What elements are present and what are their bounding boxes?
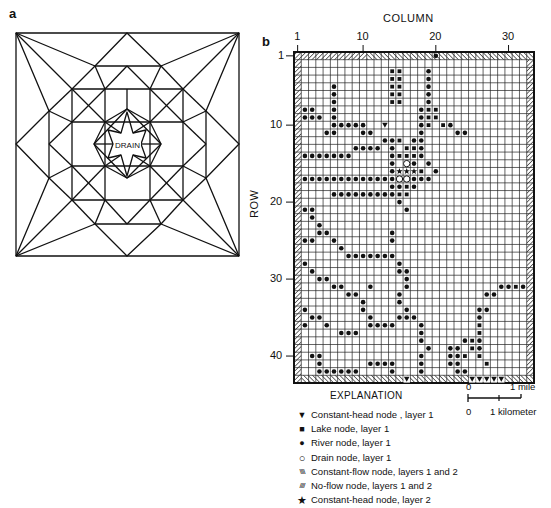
legend-item-river: ● River node, layer 1	[295, 436, 458, 450]
row-tick-label: 10	[270, 118, 282, 130]
constant-head-star-icon: ★	[295, 493, 309, 507]
model-grid	[0, 0, 551, 508]
legend-label: Lake node, layer 1	[311, 422, 389, 436]
explanation-title: EXPLANATION	[330, 390, 403, 401]
legend-item-constant-head-layer2: ★ Constant-head node, layer 2	[295, 493, 458, 507]
constant-head-triangle-icon: ▼	[295, 408, 309, 422]
scale-km-zero: 0	[466, 406, 471, 417]
legend-label: No-flow node, layers 1 and 2	[311, 479, 432, 493]
legend: ▼ Constant-head node , layer 1 ■ Lake no…	[295, 408, 458, 507]
column-tick-label: 20	[429, 30, 441, 42]
column-tick-label: 30	[502, 30, 514, 42]
legend-label: Constant-flow node, layers 1 and 2	[311, 465, 458, 479]
legend-item-constant-flow: \\\\ Constant-flow node, layers 1 and 2	[295, 465, 458, 479]
legend-label: River node, layer 1	[311, 436, 391, 450]
legend-label: Constant-head node , layer 1	[311, 408, 434, 422]
legend-item-no-flow: //// No-flow node, layers 1 and 2	[295, 479, 458, 493]
legend-label: Constant-head node, layer 2	[311, 493, 431, 507]
scale-mile-zero: 0	[466, 381, 471, 392]
river-dot-icon: ●	[295, 436, 309, 450]
row-tick-label: 1	[278, 49, 284, 61]
legend-item-drain: ○ Drain node, layer 1	[295, 451, 458, 465]
column-tick-label: 10	[356, 30, 368, 42]
legend-item-lake: ■ Lake node, layer 1	[295, 422, 458, 436]
constant-flow-hatch-icon: \\\\	[295, 465, 309, 479]
no-flow-hatch-icon: ////	[295, 479, 309, 493]
legend-item-constant-head-layer1: ▼ Constant-head node , layer 1	[295, 408, 458, 422]
legend-label: Drain node, layer 1	[311, 451, 391, 465]
row-tick-label: 30	[270, 272, 282, 284]
scale-mile-label: 1 mile	[510, 381, 535, 392]
column-tick-label: 1	[294, 30, 300, 42]
scale-bar-line	[466, 393, 536, 403]
scale-km-label: 1 kilometer	[490, 406, 536, 417]
lake-square-icon: ■	[295, 422, 309, 436]
row-tick-label: 20	[270, 195, 282, 207]
row-tick-label: 40	[270, 349, 282, 361]
drain-circle-icon: ○	[295, 451, 309, 465]
